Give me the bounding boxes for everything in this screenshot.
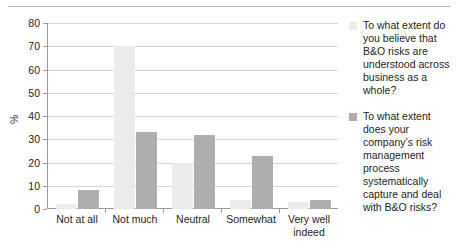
- chart-legend: To what extent do you believe that B&O r…: [349, 19, 453, 227]
- bar: [114, 46, 135, 209]
- plot-area: 01020304050607080: [47, 23, 338, 209]
- top-divider: [8, 6, 450, 7]
- y-tick-label: 60: [28, 64, 40, 75]
- bar-group: [164, 23, 222, 209]
- y-tick-mark: [43, 209, 47, 210]
- x-axis-label: Not much: [106, 213, 164, 239]
- x-axis-label: Somewhat: [222, 213, 280, 239]
- bar: [230, 200, 251, 209]
- y-tick-mark: [43, 23, 47, 24]
- bar: [172, 163, 193, 210]
- legend-swatch-icon: [349, 113, 357, 121]
- y-tick-mark: [43, 139, 47, 140]
- y-tick-mark: [43, 163, 47, 164]
- legend-label: To what extent does your company’s risk …: [363, 110, 453, 214]
- chart-figure: % 01020304050607080 Not at allNot muchNe…: [0, 0, 458, 249]
- y-tick-mark: [43, 46, 47, 47]
- y-tick-label: 40: [28, 111, 40, 122]
- bar-group: [106, 23, 164, 209]
- y-tick-label: 20: [28, 157, 40, 168]
- bar: [194, 135, 215, 209]
- y-tick-mark: [43, 186, 47, 187]
- bar: [56, 204, 77, 209]
- bar-group: [48, 23, 106, 209]
- x-axis-labels: Not at allNot muchNeutralSomewhatVery we…: [48, 213, 338, 239]
- x-axis-label: Very well indeed: [280, 213, 338, 239]
- bar-groups: [48, 23, 338, 209]
- bar: [288, 202, 309, 209]
- y-axis-title: %: [9, 115, 20, 124]
- legend-swatch-icon: [349, 22, 357, 30]
- legend-entry: To what extent does your company’s risk …: [349, 110, 453, 214]
- bar-group: [280, 23, 338, 209]
- legend-entry: To what extent do you believe that B&O r…: [349, 19, 453, 97]
- bar: [252, 156, 273, 209]
- bar: [136, 132, 157, 209]
- y-tick-mark: [43, 116, 47, 117]
- x-axis-label: Neutral: [164, 213, 222, 239]
- bar-group: [222, 23, 280, 209]
- y-tick-label: 80: [28, 18, 40, 29]
- y-tick-mark: [43, 70, 47, 71]
- y-tick-label: 0: [34, 204, 40, 215]
- y-tick-label: 10: [28, 181, 40, 192]
- x-axis-label: Not at all: [48, 213, 106, 239]
- y-tick-mark: [43, 93, 47, 94]
- y-tick-label: 30: [28, 134, 40, 145]
- legend-label: To what extent do you believe that B&O r…: [363, 19, 453, 97]
- bar: [78, 190, 99, 209]
- y-tick-label: 50: [28, 88, 40, 99]
- y-tick-label: 70: [28, 41, 40, 52]
- bar: [310, 200, 331, 209]
